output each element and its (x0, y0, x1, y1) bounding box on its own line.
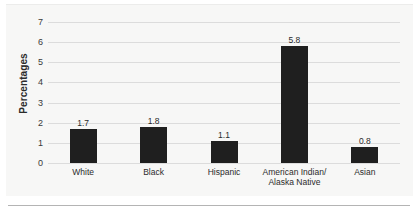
bar-value-label: 5.8 (274, 35, 314, 45)
gridline (48, 62, 400, 63)
gridline (48, 22, 400, 23)
y-tick-label: 1 (30, 143, 43, 144)
category-label: American Indian/ Alaska Native (254, 167, 334, 187)
y-tick-label: 6 (30, 42, 43, 43)
bar (351, 147, 378, 163)
y-axis-title: Percentages (18, 29, 29, 139)
category-label: Asian (325, 167, 405, 177)
category-label: Hispanic (184, 167, 264, 177)
category-label: Black (114, 167, 194, 177)
y-tick-label: 4 (30, 82, 43, 83)
bar-value-label: 1.7 (63, 118, 103, 128)
figure-container: Percentages 01234567 1.71.81.15.80.8 Whi… (0, 0, 419, 216)
y-tick-label: 5 (30, 62, 43, 63)
bar-value-label: 1.8 (134, 116, 174, 126)
gridline (48, 42, 400, 43)
bar (281, 46, 308, 163)
gridline (48, 163, 400, 164)
y-tick-label: 3 (30, 103, 43, 104)
category-label: White (43, 167, 123, 177)
y-tick-label: 2 (30, 123, 43, 124)
gridline (48, 82, 400, 83)
bar (211, 141, 238, 163)
bar-value-label: 0.8 (345, 136, 385, 146)
footer-divider (8, 205, 410, 206)
gridline (48, 103, 400, 104)
bar-value-label: 1.1 (204, 130, 244, 140)
panel-top-border (6, 4, 413, 5)
bar (70, 129, 97, 163)
y-tick-label: 0 (30, 163, 43, 164)
plot-area: 01234567 1.71.81.15.80.8 (48, 22, 400, 163)
y-tick-label: 7 (30, 22, 43, 23)
bar (140, 127, 167, 163)
